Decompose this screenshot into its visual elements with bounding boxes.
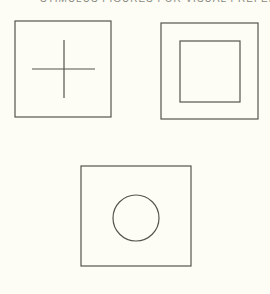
inner-square (180, 41, 240, 102)
outer-square (161, 23, 258, 119)
inner-circle (113, 195, 159, 241)
square-with-circle-figure (81, 166, 191, 266)
square-with-inner-square-figure (161, 23, 258, 119)
stimulus-figures (0, 0, 270, 294)
square-with-cross-figure (15, 21, 111, 117)
outer-square (81, 166, 191, 266)
